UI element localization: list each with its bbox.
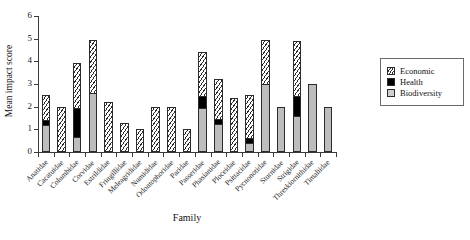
bar bbox=[136, 129, 145, 152]
bar-segment-econ bbox=[57, 107, 66, 152]
bar-segment-bio bbox=[42, 125, 51, 152]
bar-segment-bio bbox=[261, 84, 270, 152]
bar-segment-bio bbox=[89, 93, 98, 152]
y-tick-label: 0 bbox=[16, 147, 32, 156]
bar-segment-econ bbox=[42, 95, 51, 121]
plot-area: 0123456 bbox=[38, 16, 336, 152]
bar-segment-bio bbox=[73, 137, 82, 152]
bar-segment-econ bbox=[89, 40, 98, 94]
bar-segment-econ bbox=[214, 79, 223, 120]
bar-segment-econ bbox=[73, 63, 82, 108]
bar-segment-bio bbox=[277, 107, 286, 152]
bar bbox=[324, 107, 333, 152]
x-axis-title: Family bbox=[38, 212, 336, 223]
bar-segment-bio bbox=[245, 143, 254, 152]
bar-segment-bio bbox=[214, 124, 223, 152]
y-tick-label: 5 bbox=[16, 34, 32, 43]
bar-segment-econ bbox=[198, 52, 207, 97]
y-tick bbox=[34, 61, 38, 62]
bar bbox=[120, 123, 129, 152]
legend-item-health: Health bbox=[387, 78, 458, 87]
bar bbox=[73, 63, 82, 152]
bar-segment-econ bbox=[151, 107, 160, 152]
bar-segment-econ bbox=[245, 95, 254, 139]
y-tick-label: 1 bbox=[16, 124, 32, 133]
y-tick bbox=[34, 107, 38, 108]
bar-segment-bio bbox=[308, 84, 317, 152]
legend-swatch-biodiversity-icon bbox=[387, 89, 395, 97]
legend-label-biodiversity: Biodiversity bbox=[400, 89, 442, 98]
bar-segment-econ bbox=[120, 123, 129, 152]
bar-segment-health bbox=[293, 96, 302, 116]
y-tick-label: 4 bbox=[16, 56, 32, 65]
y-axis-title: Mean impact score bbox=[4, 11, 14, 151]
bar-segment-econ bbox=[261, 40, 270, 85]
y-tick-label: 2 bbox=[16, 102, 32, 111]
bar bbox=[167, 107, 176, 152]
bar bbox=[104, 102, 113, 152]
legend-item-economic: Economic bbox=[387, 67, 458, 76]
chart-figure: Mean impact score 0123456 AnatidaeCacatu… bbox=[0, 0, 470, 240]
legend-label-health: Health bbox=[400, 78, 423, 87]
y-tick-label: 6 bbox=[16, 11, 32, 20]
bar bbox=[183, 129, 192, 152]
bar bbox=[198, 52, 207, 152]
bar-segment-econ bbox=[183, 129, 192, 152]
bar bbox=[261, 40, 270, 152]
bar bbox=[277, 107, 286, 152]
y-tick bbox=[34, 129, 38, 130]
bar-segment-econ bbox=[167, 107, 176, 152]
legend: Economic Health Biodiversity bbox=[380, 58, 464, 106]
bar-segment-econ bbox=[230, 98, 239, 152]
bar bbox=[245, 95, 254, 152]
legend-label-economic: Economic bbox=[400, 67, 434, 76]
legend-swatch-economic-icon bbox=[387, 67, 395, 75]
y-tick bbox=[34, 39, 38, 40]
bar-segment-econ bbox=[136, 129, 145, 152]
bar bbox=[308, 84, 317, 152]
y-axis-line bbox=[38, 16, 39, 152]
bar bbox=[57, 107, 66, 152]
legend-item-biodiversity: Biodiversity bbox=[387, 89, 458, 98]
x-axis-line bbox=[38, 152, 337, 153]
legend-swatch-health-icon bbox=[387, 78, 395, 86]
y-axis-title-wrap: Mean impact score bbox=[2, 14, 16, 154]
bar bbox=[89, 40, 98, 152]
bar-segment-bio bbox=[198, 108, 207, 152]
x-axis-category-labels: AnatidaeCacatuidaeColumbidaeCorvidaeEstr… bbox=[38, 156, 338, 216]
bar bbox=[42, 95, 51, 152]
bar-segment-econ bbox=[293, 41, 302, 98]
y-tick bbox=[34, 84, 38, 85]
y-tick-label: 3 bbox=[16, 79, 32, 88]
bar-segment-bio bbox=[293, 116, 302, 152]
y-tick bbox=[34, 16, 38, 17]
bar bbox=[230, 98, 239, 152]
bar bbox=[151, 107, 160, 152]
bar-segment-health bbox=[73, 108, 82, 139]
bar bbox=[293, 41, 302, 152]
bar bbox=[214, 79, 223, 152]
bar-segment-bio bbox=[324, 107, 333, 152]
bar-segment-econ bbox=[104, 102, 113, 152]
